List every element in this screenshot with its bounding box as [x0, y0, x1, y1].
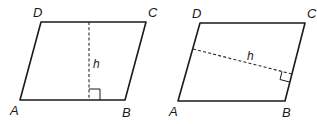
vertex-label-c-left: C	[148, 5, 158, 20]
vertex-label-b-left: B	[122, 105, 131, 120]
vertex-label-c-right: C	[307, 6, 317, 21]
height-line-right	[193, 49, 292, 74]
diagram-canvas: h D C A B h D C A B	[0, 0, 317, 124]
right-angle-marker-left	[89, 89, 100, 100]
figure-right-parallelogram: h D C A B	[168, 6, 317, 120]
figure-left-parallelogram: h D C A B	[9, 5, 158, 120]
height-label-right: h	[247, 49, 254, 63]
right-angle-marker-right	[280, 72, 290, 83]
parallelogram-abcd-right	[178, 23, 305, 101]
vertex-label-d-left: D	[33, 5, 42, 20]
vertex-label-d-right: D	[192, 6, 201, 21]
height-label-left: h	[93, 57, 100, 71]
parallelogram-abcd-left	[20, 22, 146, 100]
vertex-label-b-right: B	[282, 105, 291, 120]
vertex-label-a-left: A	[9, 103, 19, 118]
vertex-label-a-right: A	[168, 104, 178, 119]
